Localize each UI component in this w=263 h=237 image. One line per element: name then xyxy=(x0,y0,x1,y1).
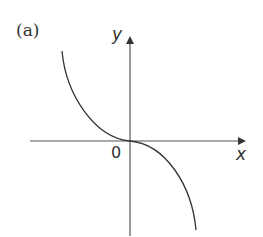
origin-label: 0 xyxy=(111,145,121,161)
figure-canvas: (a) y x 0 xyxy=(0,0,263,237)
graph-svg xyxy=(0,0,263,237)
part-label: (a) xyxy=(16,22,39,39)
x-axis-label: x xyxy=(236,146,246,163)
y-axis-label: y xyxy=(112,26,122,43)
